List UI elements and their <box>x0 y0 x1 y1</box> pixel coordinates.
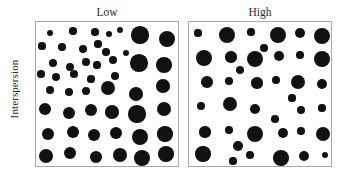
scatter-dot <box>105 105 118 118</box>
scatter-dot <box>316 127 330 141</box>
scatter-dot <box>297 127 305 135</box>
scatter-dot <box>299 151 309 161</box>
scatter-dot <box>247 51 263 67</box>
scatter-dot <box>197 102 205 110</box>
scatter-dot <box>46 86 54 94</box>
scatter-dot <box>274 51 285 62</box>
scatter-dot <box>272 76 280 84</box>
scatter-dot <box>131 26 148 43</box>
scatter-dot <box>52 73 60 81</box>
scatter-dot <box>130 54 148 72</box>
scatter-dot <box>318 104 325 111</box>
scatter-dot <box>199 126 210 137</box>
scatter-dot <box>314 51 330 67</box>
scatter-dot <box>129 87 143 101</box>
scatter-dot <box>109 56 117 64</box>
scatter-dot <box>273 150 289 166</box>
scatter-dot <box>106 31 112 37</box>
scatter-dot <box>101 81 116 96</box>
scatter-dot <box>90 151 103 164</box>
scatter-dot <box>295 28 305 38</box>
scatter-dot <box>219 27 236 44</box>
y-axis-label: Interspersion <box>8 14 20 164</box>
scatter-dot <box>246 151 254 159</box>
scatter-dot <box>194 29 201 36</box>
scatter-dot <box>58 43 66 51</box>
scatter-dot <box>247 28 254 35</box>
scatter-dot <box>314 28 330 44</box>
scatter-dot <box>117 27 124 34</box>
scatter-dot <box>64 147 76 159</box>
scatter-dot <box>49 59 57 67</box>
scatter-dot <box>297 106 306 115</box>
scatter-dot <box>111 72 119 80</box>
panel-title-high: High <box>188 6 332 18</box>
scatter-dot <box>195 146 210 161</box>
scatter-dot <box>322 152 329 159</box>
scatter-dot <box>233 141 243 151</box>
scatter-dot <box>70 70 78 78</box>
scatter-dot <box>38 42 45 49</box>
scatter-dot <box>123 50 130 57</box>
scatter-dot <box>39 149 53 163</box>
scatter-dot <box>82 87 90 95</box>
scatter-dot <box>102 48 110 56</box>
scatter-dot <box>288 94 295 101</box>
scatter-panel-low <box>35 21 179 167</box>
scatter-dot <box>67 126 79 138</box>
scatter-dot <box>247 126 263 142</box>
scatter-dot <box>223 97 237 111</box>
scatter-dot <box>134 150 150 166</box>
scatter-dot <box>132 129 148 145</box>
panel-title-low: Low <box>35 6 179 18</box>
scatter-dot <box>250 104 260 114</box>
scatter-dot <box>225 126 233 134</box>
scatter-dot <box>65 88 74 97</box>
scatter-dot <box>42 128 54 140</box>
scatter-dot <box>82 58 90 66</box>
scatter-dot <box>278 128 289 139</box>
scatter-dot <box>156 79 170 93</box>
scatter-dot <box>201 76 213 88</box>
scatter-dot <box>87 75 94 82</box>
scatter-dot <box>260 44 268 52</box>
scatter-dot <box>85 104 97 116</box>
scatter-dot <box>158 146 174 162</box>
scatter-panel-high <box>188 21 332 167</box>
scatter-dot <box>296 51 304 59</box>
scatter-dot <box>157 102 171 116</box>
scatter-dot <box>69 27 76 34</box>
scatter-dot <box>88 129 101 142</box>
scatter-dot <box>229 157 236 164</box>
y-axis-label-container: Interspersion <box>0 0 30 179</box>
scatter-dot <box>317 79 327 89</box>
scatter-dot <box>113 148 127 162</box>
scatter-dot <box>225 77 233 85</box>
scatter-dot <box>94 40 101 47</box>
scatter-dot <box>37 70 44 77</box>
scatter-dot <box>47 30 54 37</box>
scatter-dot <box>236 66 244 74</box>
scatter-dot <box>157 126 172 141</box>
scatter-dot <box>270 27 286 43</box>
scatter-dot <box>291 75 306 90</box>
scatter-dot <box>79 45 87 53</box>
scatter-dot <box>251 77 262 88</box>
scatter-dot <box>196 50 213 67</box>
scatter-dot <box>63 107 75 119</box>
scatter-dot <box>91 28 99 36</box>
scatter-dot <box>159 31 175 47</box>
scatter-dot <box>225 51 236 62</box>
scatter-dot <box>93 61 100 68</box>
scatter-dot <box>39 103 52 116</box>
interspersion-figure: Interspersion Low High <box>0 0 345 179</box>
scatter-dot <box>271 115 279 123</box>
scatter-dot <box>128 105 145 122</box>
scatter-dot <box>156 57 172 73</box>
scatter-dot <box>110 127 122 139</box>
